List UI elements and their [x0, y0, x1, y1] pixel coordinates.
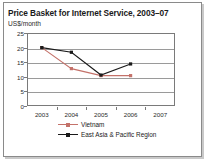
series-line	[42, 48, 131, 76]
y-axis-ticks: 0510152025	[8, 33, 24, 106]
data-point-marker	[129, 62, 132, 65]
plot-wrapper: 0510152025 20032004200520062007	[8, 30, 194, 118]
y-tick-label: 15	[17, 59, 24, 66]
x-tick-mark	[86, 107, 87, 110]
legend-marker-icon	[66, 123, 70, 127]
chart-figure: Price Basket for Internet Service, 2003–…	[0, 0, 210, 167]
y-tick-label: 10	[17, 73, 24, 80]
x-axis-ticks: 20032004200520062007	[27, 107, 175, 121]
y-tick-label: 20	[17, 44, 24, 51]
data-point-marker	[129, 74, 132, 77]
legend-swatch-icon	[58, 120, 78, 129]
data-point-marker	[40, 46, 43, 49]
chart-legend: VietnamEast Asia & Pacific Region	[58, 120, 156, 140]
data-point-marker	[70, 67, 73, 70]
legend-item[interactable]: Vietnam	[58, 120, 156, 129]
x-tick-mark	[116, 107, 117, 110]
legend-marker-icon	[66, 133, 70, 137]
y-tick-label: 25	[17, 30, 24, 37]
legend-swatch-icon	[58, 130, 78, 139]
legend-item[interactable]: East Asia & Pacific Region	[58, 130, 156, 139]
x-tick-label: 2005	[94, 111, 108, 118]
data-point-marker	[70, 51, 73, 54]
series-layer	[27, 33, 175, 106]
chart-subtitle: US$/month	[8, 20, 41, 27]
x-tick-label: 2004	[65, 111, 79, 118]
data-point-marker	[99, 73, 102, 76]
legend-label: East Asia & Pacific Region	[81, 130, 156, 139]
x-tick-label: 2003	[35, 111, 49, 118]
chart-title: Price Basket for Internet Service, 2003–…	[8, 8, 168, 18]
legend-label: Vietnam	[81, 120, 104, 129]
x-tick-mark	[145, 107, 146, 110]
x-tick-label: 2007	[153, 111, 167, 118]
x-tick-label: 2006	[124, 111, 138, 118]
series-line	[42, 48, 131, 75]
x-tick-mark	[57, 107, 58, 110]
